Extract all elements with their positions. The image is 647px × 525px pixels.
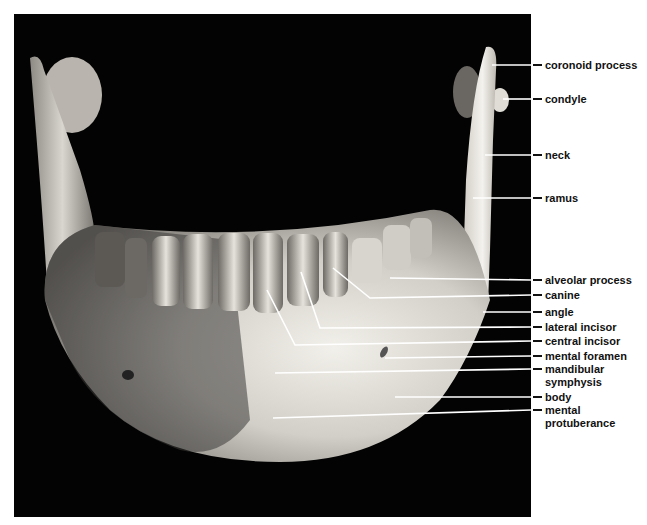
label-ramus: ramus: [533, 192, 578, 205]
label-text: body: [545, 391, 571, 404]
label-alveolar-process: alveolar process: [533, 274, 632, 287]
label-condyle: condyle: [533, 93, 587, 106]
label-canine: canine: [533, 289, 580, 302]
leader-tick: [533, 409, 542, 411]
label-text: coronoid process: [545, 59, 637, 72]
label-angle: angle: [533, 306, 574, 319]
label-text: mandibular: [545, 363, 604, 376]
label-text: condyle: [545, 93, 587, 106]
label-text: neck: [545, 149, 570, 162]
leader-tick: [533, 294, 542, 296]
label-text-line2: symphysis: [533, 376, 604, 389]
label-text: lateral incisor: [545, 321, 617, 334]
label-text: canine: [545, 289, 580, 302]
mandible-illustration: [14, 14, 531, 517]
anatomy-figure: coronoid processcondyleneckramusalveolar…: [0, 0, 647, 525]
leader-tick: [533, 355, 542, 357]
leader-tick: [533, 279, 542, 281]
leader-tick: [533, 197, 542, 199]
label-coronoid-process: coronoid process: [533, 59, 637, 72]
leader-tick: [533, 98, 542, 100]
leader-tick: [533, 340, 542, 342]
label-neck: neck: [533, 149, 570, 162]
label-mental-foramen: mental foramen: [533, 350, 627, 363]
label-central-incisor: central incisor: [533, 335, 620, 348]
label-text-line2: protuberance: [533, 417, 615, 430]
label-text: angle: [545, 306, 574, 319]
label-text: mental foramen: [545, 350, 627, 363]
leader-tick: [533, 311, 542, 313]
mandible-photo: [14, 14, 531, 517]
leader-tick: [533, 64, 542, 66]
leader-tick: [533, 368, 542, 370]
leader-tick: [533, 326, 542, 328]
label-lateral-incisor: lateral incisor: [533, 321, 617, 334]
label-body: body: [533, 391, 571, 404]
label-text: alveolar process: [545, 274, 632, 287]
leader-tick: [533, 154, 542, 156]
label-text: mental: [545, 404, 580, 417]
label-text: ramus: [545, 192, 578, 205]
label-mental-protuberance: mentalprotuberance: [533, 404, 615, 430]
label-mandibular-symphysis: mandibularsymphysis: [533, 363, 604, 389]
leader-tick: [533, 396, 542, 398]
label-text: central incisor: [545, 335, 620, 348]
